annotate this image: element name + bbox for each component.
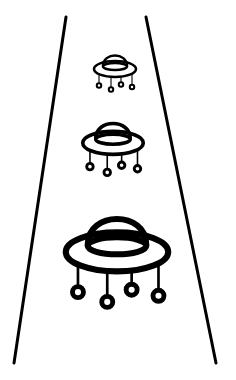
ufo-illustration — [0, 0, 236, 380]
ufo-icon-large — [66, 219, 168, 307]
left-line — [14, 17, 66, 363]
right-line — [146, 17, 216, 363]
ufo-icon-small — [94, 56, 136, 92]
ufo-icon-medium — [83, 123, 143, 175]
